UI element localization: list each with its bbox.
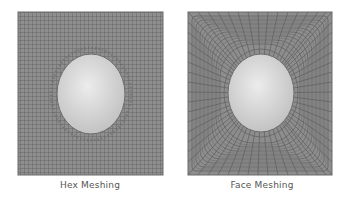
face-mesh-figure	[174, 0, 348, 198]
hex-mesh-figure	[0, 0, 174, 198]
hex-meshing-panel: Hex Meshing	[0, 0, 174, 198]
face-meshing-caption: Face Meshing	[207, 180, 317, 190]
face-meshing-panel: Face Meshing	[174, 0, 348, 198]
hex-meshing-caption: Hex Meshing	[40, 180, 140, 190]
